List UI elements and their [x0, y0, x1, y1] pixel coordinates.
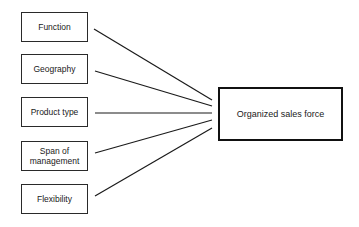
edge-flexibility: [95, 128, 212, 196]
factor-box-product-type: Product type: [21, 97, 88, 127]
factor-label: Flexibility: [37, 194, 72, 204]
factor-label: Geography: [33, 64, 75, 74]
factor-label: Function: [38, 22, 71, 32]
factor-box-function: Function: [21, 12, 88, 42]
edge-function: [94, 29, 212, 100]
factor-box-geography: Geography: [21, 54, 88, 84]
edge-geography: [95, 71, 212, 106]
factor-box-flexibility: Flexibility: [21, 184, 88, 214]
outcome-label: Organized sales force: [237, 109, 325, 119]
edge-span-of-management: [95, 120, 212, 153]
factor-label: Product type: [31, 107, 79, 117]
outcome-box-organized-sales-force: Organized sales force: [218, 87, 343, 141]
factor-label: Span of management: [30, 146, 80, 166]
factor-box-span-of-management: Span of management: [21, 141, 88, 171]
